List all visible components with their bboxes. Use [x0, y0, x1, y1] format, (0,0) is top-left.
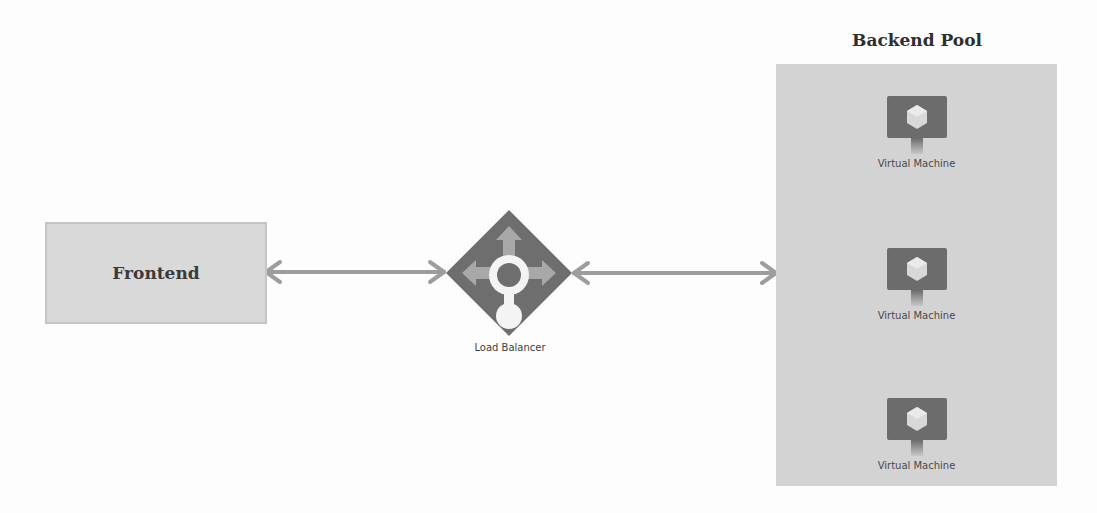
virtual-machine-label: Virtual Machine	[878, 310, 956, 321]
virtual-machine-node[interactable]: Virtual Machine	[776, 94, 1057, 169]
arrow-loadbalancer-backend	[574, 263, 776, 283]
frontend-node[interactable]: Frontend	[45, 222, 267, 324]
virtual-machine-node[interactable]: Virtual Machine	[776, 246, 1057, 321]
load-balancer-node[interactable]	[444, 208, 574, 338]
load-balancer-icon	[444, 208, 574, 338]
virtual-machine-icon	[885, 246, 949, 308]
virtual-machine-icon	[885, 94, 949, 156]
virtual-machine-label: Virtual Machine	[878, 158, 956, 169]
virtual-machine-icon	[885, 396, 949, 458]
load-balancer-label: Load Balancer	[440, 342, 580, 353]
backend-pool-container[interactable]: Virtual Machine Virtual Machi	[776, 64, 1057, 486]
arrow-frontend-loadbalancer	[266, 262, 444, 282]
virtual-machine-node[interactable]: Virtual Machine	[776, 396, 1057, 471]
virtual-machine-label: Virtual Machine	[878, 460, 956, 471]
frontend-label: Frontend	[112, 263, 199, 283]
backend-pool-title: Backend Pool	[776, 30, 1058, 50]
diagram-canvas: Frontend Load Balancer Backend Pool	[0, 0, 1097, 513]
